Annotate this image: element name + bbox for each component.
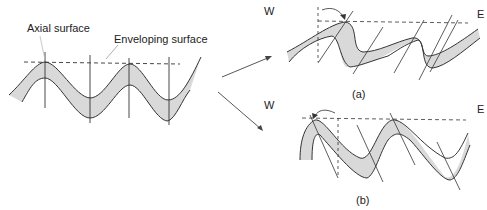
- enveloping-surface-label: Enveloping surface: [114, 33, 208, 45]
- axial-surface-label: Axial surface: [27, 22, 90, 34]
- west-label-b: W: [264, 99, 274, 111]
- fold-b: [300, 110, 470, 190]
- east-label-a: E: [477, 8, 484, 20]
- upright-fold: [9, 36, 201, 125]
- fold-a: [287, 7, 480, 80]
- transition-arrows: [218, 56, 272, 131]
- east-label-b: E: [477, 103, 484, 115]
- caption-a: (a): [352, 88, 365, 100]
- caption-b: (b): [356, 194, 369, 206]
- west-label-a: W: [264, 5, 274, 17]
